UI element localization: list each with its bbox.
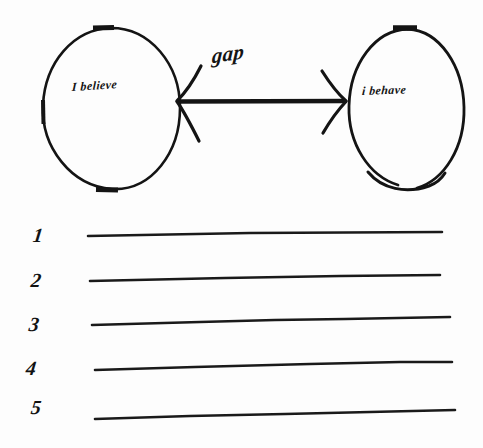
ruled-line-2	[90, 275, 440, 281]
node-believe-shape	[43, 28, 180, 191]
connector-label-gap: gap	[211, 39, 245, 69]
node-behave-shape	[349, 28, 464, 190]
node-label-behave: i behave	[361, 82, 406, 99]
handdrawn-diagram-canvas: I believe i behave gap 1 2 3 4 5	[0, 0, 483, 448]
ruled-line-3	[92, 317, 450, 325]
connector-gap-arrow	[177, 66, 346, 141]
ruled-line-1	[88, 232, 442, 236]
ruled-line-5	[95, 410, 455, 419]
ruled-line-4	[95, 362, 452, 370]
sketch-layer	[0, 0, 483, 448]
ruled-lines-group	[88, 232, 455, 419]
node-label-believe: I believe	[72, 77, 118, 95]
